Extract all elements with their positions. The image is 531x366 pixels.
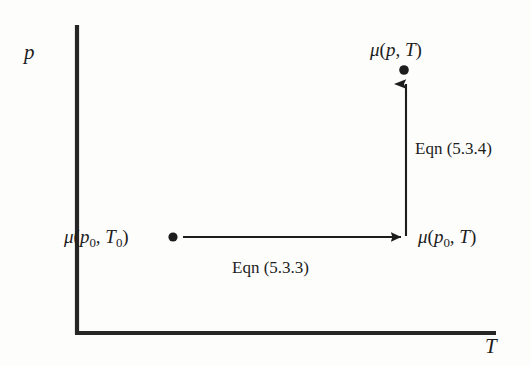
mu-symbol: μ bbox=[64, 226, 74, 247]
temperature-symbol: T bbox=[405, 39, 416, 60]
temperature-symbol: T bbox=[459, 226, 470, 247]
node-label-mu-p0-t0: μ(p0, T0) bbox=[64, 227, 129, 250]
annotation-eqn-533: Eqn (5.3.3) bbox=[232, 259, 309, 276]
comma: , bbox=[450, 226, 460, 247]
paren-close: ) bbox=[470, 226, 476, 247]
node-label-mu-p-t: μ(p, T) bbox=[370, 40, 422, 59]
pressure-symbol: p bbox=[434, 226, 444, 247]
comma: , bbox=[395, 39, 405, 60]
paren-close: ) bbox=[415, 39, 421, 60]
point-mu-p-t bbox=[399, 65, 409, 75]
pressure-symbol: p bbox=[386, 39, 396, 60]
x-axis-label: T bbox=[485, 336, 497, 357]
mu-symbol: μ bbox=[418, 226, 428, 247]
paren-close: ) bbox=[122, 226, 128, 247]
temperature-symbol: T bbox=[105, 226, 116, 247]
annotation-eqn-534: Eqn (5.3.4) bbox=[415, 140, 492, 157]
figure-canvas: p T μ(p, T) μ(p0, T0) μ(p0, T) Eqn (5.3.… bbox=[0, 0, 531, 366]
mu-symbol: μ bbox=[370, 39, 380, 60]
node-label-mu-p0-t: μ(p0, T) bbox=[418, 227, 476, 250]
diagram-vector-layer bbox=[0, 0, 531, 366]
y-axis-label: p bbox=[24, 42, 35, 63]
point-mu-p0-t0 bbox=[168, 232, 177, 241]
comma: , bbox=[96, 226, 106, 247]
pressure-symbol: p bbox=[80, 226, 90, 247]
